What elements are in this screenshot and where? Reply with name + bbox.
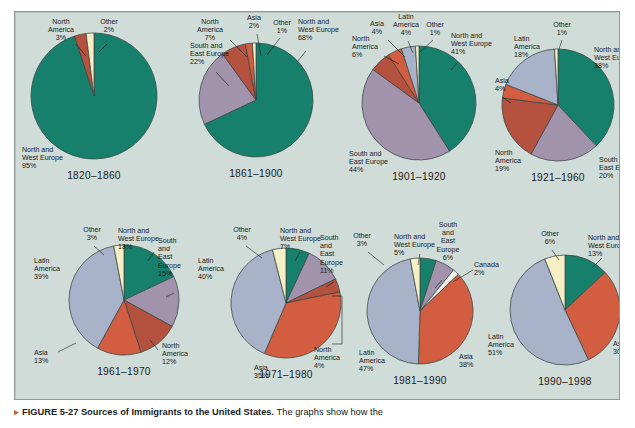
pie-slice-label: SouthandEastEurope15% (158, 237, 181, 278)
pie-chart-title: 1901–1920 (392, 171, 446, 182)
pie-slice-label: North andWest Europe95% (22, 146, 63, 170)
pie-slice-label: Other3% (83, 226, 101, 242)
pie-slice-label: North andWest Europe7% (280, 227, 321, 251)
pie-chart: North andWest Europe41%South andEast Eur… (349, 13, 492, 182)
pie-chart: North andWest Europe7%SouthandEastEurope… (198, 226, 343, 380)
pie-slice-label: Other2% (100, 18, 118, 34)
pie-slice-label: LatinAmerica47% (359, 349, 385, 373)
pie-slice-label: LatinAmerica51% (488, 333, 514, 357)
pie-chart: North andWest Europe18%SouthandEastEurop… (34, 226, 188, 377)
pie-slice (367, 259, 420, 364)
pie-chart: North andWest Europe5%SouthandEastEurope… (353, 221, 499, 386)
caption-figure-body: The graphs show how the (277, 407, 383, 417)
pie-slice-label: SouthandEastEurope6% (437, 221, 460, 262)
pie-chart-title: 1861–1900 (229, 168, 283, 179)
pie-slice-label: Other1% (553, 21, 571, 37)
pie-chart-title: 1971–1980 (259, 369, 313, 380)
pie-slice-label: LatinAmerica40% (198, 257, 224, 281)
pie-charts-svg: North andWest Europe95%NorthAmerica3%Oth… (15, 12, 619, 399)
pie-slice-label: South andEast Europe20% (599, 156, 619, 180)
label-leader-line (246, 246, 262, 258)
pie-slice-label: Asia13% (34, 349, 49, 365)
figure-caption: ▸FIGURE 5-27 Sources of Immigrants to th… (14, 406, 635, 428)
caption-figure-title: Sources of Immigrants to the United Stat… (81, 407, 274, 417)
pie-chart-title: 1981–1990 (393, 375, 447, 386)
pie-chart-title: 1961–1970 (97, 366, 151, 377)
pie-chart: North andWest Europe95%NorthAmerica3%Oth… (22, 18, 157, 181)
pie-slice-label: North andWest Europe41% (451, 32, 492, 56)
pie-slice-label: NorthAmerica4% (314, 346, 340, 370)
pie-slice-label: North andWest Europe5% (394, 233, 435, 257)
figure-panel: North andWest Europe95%NorthAmerica3%Oth… (14, 11, 620, 400)
pie-slice-label: Other6% (541, 230, 559, 246)
pie-slice-label: Other1% (273, 19, 291, 35)
pie-slice-label: NorthAmerica7% (197, 18, 223, 42)
pie-slice-label: Other4% (233, 226, 251, 242)
pie-slice-label: North andWest Europe68% (298, 18, 339, 42)
pie-slice-label: South andEast Europe44% (349, 150, 388, 174)
caption-figure-number: FIGURE 5-27 (22, 407, 78, 417)
pie-chart-title: 1990–1998 (538, 376, 592, 387)
pie-slice-label: NorthAmerica19% (495, 149, 521, 173)
pie-slice-label: Canada2% (474, 261, 499, 277)
pie-slice-label: Other3% (353, 232, 371, 248)
pie-slice-label: North andWest Europe38% (594, 46, 619, 70)
pie-slice-label: NorthAmerica6% (352, 35, 378, 59)
pie-chart-title: 1820–1860 (67, 170, 121, 181)
pie-slice-label: Asia30% (613, 340, 619, 356)
label-leader-line (559, 40, 562, 49)
pie-slice-label: LatinAmerica4% (393, 13, 419, 37)
pie-chart: North andWest Europe13%Asia30%LatinAmeri… (488, 230, 619, 387)
label-leader-line (368, 252, 384, 265)
pie-slice-label: NorthAmerica12% (162, 342, 188, 366)
pie-chart: North andWest Europe38%South andEast Eur… (495, 21, 619, 183)
pie-slice-label: North andWest Europe13% (588, 234, 619, 258)
pie-chart-title: 1921–1960 (531, 172, 585, 183)
pie-slice-label: Asia2% (247, 14, 261, 30)
figure-container: North andWest Europe95%NorthAmerica3%Oth… (0, 0, 635, 428)
label-leader-line (297, 51, 306, 62)
pie-slice-label: Other1% (426, 21, 444, 37)
pie-chart: North andWest Europe68%South andEast Eur… (190, 14, 339, 179)
label-leader-line (58, 343, 76, 352)
caption-bullet-icon: ▸ (14, 407, 19, 417)
pie-slice-label: SouthandEastEurope11% (320, 234, 343, 275)
pie-slice-label: Asia4% (370, 20, 384, 36)
pie-slice-label: LatinAmerica39% (34, 257, 60, 281)
pie-slice-label: Asia38% (459, 353, 474, 369)
